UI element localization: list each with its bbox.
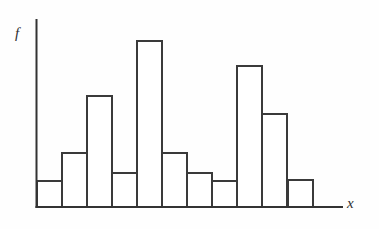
x-axis-label: x <box>347 196 354 211</box>
histogram-bar <box>162 153 187 207</box>
histogram-bar <box>262 114 287 207</box>
histogram-plot <box>0 0 379 229</box>
histogram-bar <box>288 180 313 207</box>
histogram-bar <box>112 173 137 207</box>
bars-group <box>37 41 313 207</box>
histogram-bar <box>212 181 237 207</box>
y-axis-label: f <box>15 26 19 41</box>
histogram-figure: f x <box>0 0 379 229</box>
histogram-bar <box>237 66 262 207</box>
histogram-bar <box>37 181 62 207</box>
histogram-bar <box>62 153 87 207</box>
histogram-bar <box>187 173 212 207</box>
histogram-bar <box>87 96 112 207</box>
histogram-bar <box>137 41 162 207</box>
